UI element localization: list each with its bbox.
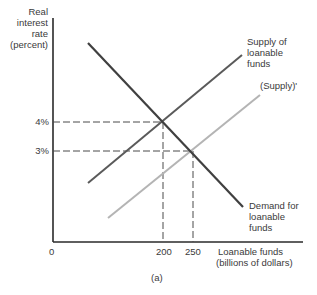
y-axis-label-line: (percent) (0, 39, 48, 50)
y-axis-label-line: Real (0, 6, 48, 17)
figure-caption: (a) (151, 272, 163, 283)
y-axis-label-line: rate (0, 28, 48, 39)
x-axis-label-line: Loanable funds (218, 246, 293, 257)
y-tick-4pct: 4% (20, 116, 49, 127)
demand-label-line: loanable (249, 211, 299, 222)
supply-prime-label: (Supply)' (260, 80, 297, 91)
x-tick-250: 250 (185, 246, 201, 257)
supply-line (88, 55, 242, 183)
y-axis-label: Real interest rate (percent) (0, 6, 48, 50)
demand-label-line: funds (249, 222, 299, 233)
x-axis-label: Loanable funds (billions of dollars) (218, 246, 293, 268)
demand-label: Demand for loanable funds (249, 200, 299, 233)
y-axis-label-line: interest (0, 17, 48, 28)
supply-label-line: loanable (247, 47, 287, 58)
supply-label-line: funds (247, 58, 287, 69)
demand-label-line: Demand for (249, 200, 299, 211)
x-tick-0: 0 (49, 246, 54, 257)
demand-line (88, 43, 243, 207)
supply-label-line: Supply of (247, 36, 287, 47)
x-axis-label-line: (billions of dollars) (216, 257, 293, 268)
y-tick-3pct: 3% (20, 145, 49, 156)
x-tick-200: 200 (156, 246, 172, 257)
supply-label: Supply of loanable funds (247, 36, 287, 69)
